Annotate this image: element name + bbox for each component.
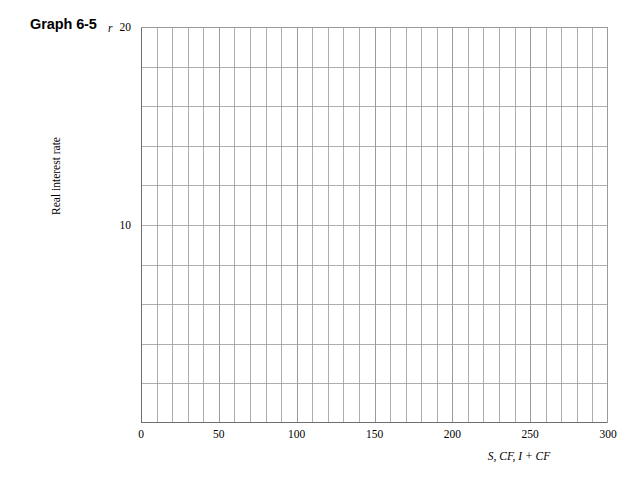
y-axis-title: Real interest rate: [50, 76, 62, 276]
x-axis-tick-label-300: 300: [588, 428, 628, 440]
y-axis-tick-label-20: 20: [103, 21, 131, 33]
plot-area: [141, 27, 608, 423]
x-axis-tick-label-50: 50: [199, 428, 239, 440]
horizontal-gridlines: [141, 28, 608, 424]
x-axis-tick-label-150: 150: [355, 428, 395, 440]
grid-lines: [141, 27, 608, 423]
x-axis-tick-label-200: 200: [432, 428, 472, 440]
vertical-gridlines: [142, 27, 609, 423]
page-title: Graph 6-5: [30, 16, 97, 32]
y-axis-tick-label-10: 10: [103, 219, 131, 231]
x-axis-tick-label-100: 100: [277, 428, 317, 440]
plot-border: [141, 27, 608, 423]
x-axis-tick-label-0: 0: [121, 428, 161, 440]
x-axis-tick-label-250: 250: [510, 428, 550, 440]
x-axis-title: S, CF, I + CF: [430, 450, 608, 462]
